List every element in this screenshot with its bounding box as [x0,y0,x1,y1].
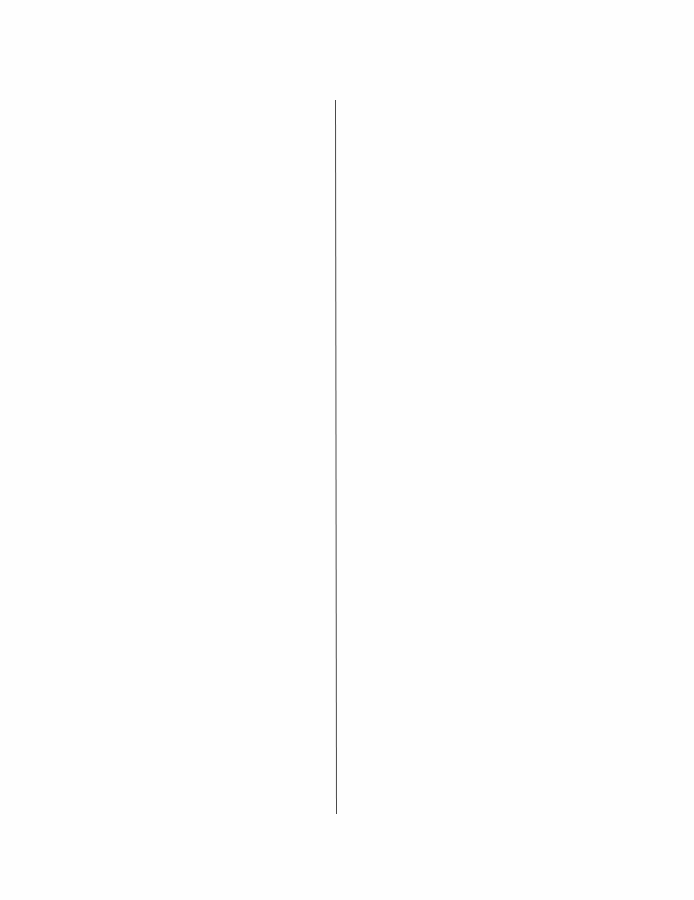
vertical-divider-line [335,100,337,814]
blank-page [0,0,694,900]
